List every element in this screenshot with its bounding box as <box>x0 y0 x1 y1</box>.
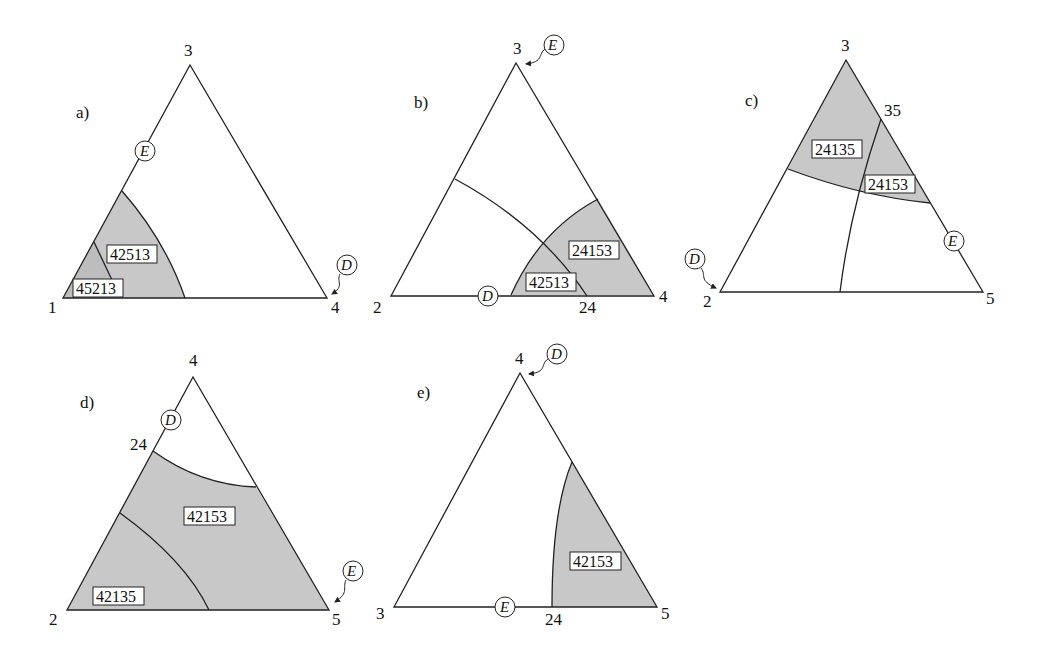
marker-d-b: D <box>478 286 498 306</box>
vertex-label-e-top: 4 <box>515 349 524 368</box>
panel-label-c-top: 3 <box>841 36 850 55</box>
svg-text:24153: 24153 <box>572 242 612 259</box>
svg-text:E: E <box>346 563 356 579</box>
svg-text:42135: 42135 <box>96 588 136 605</box>
panel-label-d: d) <box>80 393 94 412</box>
vertex-label-e-left: 3 <box>376 604 385 623</box>
svg-text:E: E <box>139 143 149 159</box>
region-label-a-42513: 42513 <box>107 245 157 263</box>
svg-text:D: D <box>164 412 176 428</box>
marker-e-e: E <box>495 597 515 617</box>
vertex-label-d-right: 5 <box>332 610 341 629</box>
svg-text:42153: 42153 <box>187 508 227 525</box>
svg-text:D: D <box>481 288 493 304</box>
marker-e-c: E <box>944 231 964 251</box>
arrow-d-e <box>529 359 548 374</box>
marker-e-d: E <box>343 561 363 581</box>
region-42153-e-shade <box>552 462 657 607</box>
edge-point-d-24: 24 <box>130 435 148 454</box>
region-label-e-42153: 42153 <box>570 552 621 570</box>
marker-d-d: D <box>161 410 181 430</box>
ternary-diagrams-figure: a) 3 1 4 42513 45213 E D b) 3 2 4 24 <box>0 0 1044 658</box>
vertex-label-a-left: 1 <box>48 298 57 317</box>
vertex-label-d-top: 4 <box>189 351 198 370</box>
panel-d: 4 d) 2 5 24 42153 42135 D E <box>49 351 363 629</box>
region-label-c-24153: 24153 <box>865 175 915 193</box>
edge-point-e-24: 24 <box>545 610 563 629</box>
vertex-label-b-left: 2 <box>373 298 382 317</box>
vertex-label-a-top: 3 <box>184 41 193 60</box>
vertex-label-b-top: 3 <box>513 39 522 58</box>
svg-text:42513: 42513 <box>110 246 150 263</box>
panel-label-b: b) <box>414 93 428 112</box>
edge-point-b-24: 24 <box>579 298 597 317</box>
vertex-label-d-left: 2 <box>49 610 58 629</box>
svg-text:24135: 24135 <box>815 141 855 158</box>
arrow-e-d <box>335 580 346 602</box>
marker-d-c: D <box>685 249 705 269</box>
svg-text:45213: 45213 <box>76 280 116 297</box>
svg-text:E: E <box>499 599 509 615</box>
arrow-d-c <box>701 268 716 288</box>
marker-e-b: E <box>544 35 564 55</box>
vertex-label-b-right: 4 <box>659 287 668 306</box>
svg-text:D: D <box>688 251 700 267</box>
svg-text:24153: 24153 <box>868 176 908 193</box>
panel-label-a: a) <box>76 103 89 122</box>
arrow-d-a <box>332 274 340 294</box>
panel-a: a) 3 1 4 42513 45213 E D <box>48 41 357 317</box>
panel-label-c: c) <box>745 91 758 110</box>
region-label-d-42135: 42135 <box>93 587 144 605</box>
svg-text:D: D <box>340 257 352 273</box>
svg-text:E: E <box>947 233 957 249</box>
svg-text:D: D <box>550 346 562 362</box>
panel-label-e: e) <box>417 383 430 402</box>
svg-text:42153: 42153 <box>573 553 613 570</box>
region-label-a-45213: 45213 <box>73 279 123 297</box>
arrow-e-b <box>526 49 545 64</box>
vertex-label-c-right: 5 <box>986 289 995 308</box>
panel-b: b) 3 2 4 24 24153 42513 E D <box>373 35 668 317</box>
vertex-label-a-right: 4 <box>331 298 340 317</box>
marker-d-a: D <box>337 255 357 275</box>
region-label-c-24135: 24135 <box>812 140 862 158</box>
region-label-b-42513: 42513 <box>526 273 576 291</box>
region-label-d-42153: 42153 <box>184 507 235 525</box>
marker-e-a: E <box>135 141 155 161</box>
edge-point-c-35: 35 <box>884 101 901 120</box>
svg-text:42513: 42513 <box>529 274 569 291</box>
panel-c: 3 c) 2 5 35 24135 24153 E D <box>685 36 995 311</box>
vertex-label-e-right: 5 <box>661 604 670 623</box>
svg-text:E: E <box>547 37 557 53</box>
region-label-b-24153: 24153 <box>569 241 619 259</box>
panel-e: 4 e) 3 5 24 42153 D E <box>376 344 670 629</box>
vertex-label-c-left: 2 <box>703 292 712 311</box>
marker-d-e: D <box>547 344 567 364</box>
